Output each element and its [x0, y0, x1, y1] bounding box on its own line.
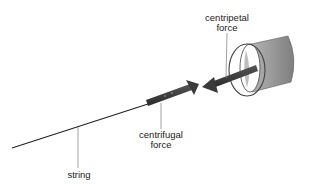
centripetal-label-line2: force [196, 23, 258, 33]
centripetal-force-label: centripetal force [196, 13, 258, 33]
centripetal-leader-line [226, 33, 227, 78]
force-diagram [0, 0, 309, 184]
bucket-icon [229, 36, 294, 96]
centrifugal-force-arrow-icon [146, 80, 199, 106]
centrifugal-label-line2: force [130, 140, 192, 150]
centrifugal-force-label: centrifugal force [130, 130, 192, 150]
string-label: string [62, 170, 96, 180]
string-line [12, 104, 148, 148]
